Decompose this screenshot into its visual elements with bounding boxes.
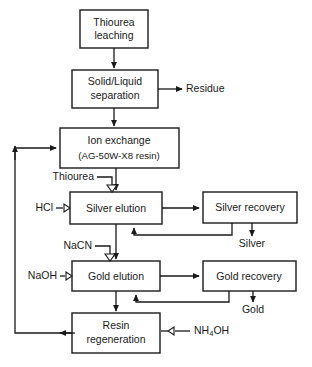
box-ion-exchange-line1: Ion exchange (87, 134, 150, 146)
box-resin-regeneration-line1: Resin (103, 319, 130, 331)
box-ion-exchange[interactable]: Ion exchange (AG-50W-X8 resin) (60, 128, 179, 168)
box-solid-liquid-separation[interactable]: Solid/Liquid separation (72, 70, 158, 108)
box-resin-regeneration-line2: regeneration (87, 333, 146, 345)
process-flow-diagram: Thiourea leaching Solid/Liquid separatio… (0, 0, 312, 367)
box-gold-recovery-label: Gold recovery (216, 270, 282, 282)
box-ion-exchange-line2: (AG-50W-X8 resin) (78, 150, 159, 161)
box-thiourea-leaching-line1: Thiourea (93, 16, 135, 28)
label-naoh-reagent: NaOH (28, 269, 57, 281)
label-nacn-reagent: NaCN (63, 239, 92, 251)
box-silver-elution[interactable]: Silver elution (70, 192, 162, 224)
label-residue: Residue (186, 82, 225, 94)
connector-gold-recovery-recycle (136, 291, 229, 302)
label-gold-product: Gold (242, 303, 264, 315)
box-resin-regeneration[interactable]: Resin regeneration (72, 313, 160, 353)
box-thiourea-leaching-line2: leaching (94, 29, 133, 41)
box-solid-liquid-separation-line1: Solid/Liquid (88, 75, 142, 87)
label-silver-product: Silver (239, 237, 266, 249)
box-gold-recovery[interactable]: Gold recovery (203, 261, 296, 291)
box-gold-elution[interactable]: Gold elution (72, 261, 160, 291)
box-solid-liquid-separation-line2: separation (90, 89, 139, 101)
naoh-valve-icon (66, 272, 72, 280)
box-silver-recovery-label: Silver recovery (215, 201, 285, 213)
nh4oh-base1: NH (194, 324, 209, 336)
box-silver-elution-label: Silver elution (86, 202, 146, 214)
nh4oh-valve-icon (168, 327, 174, 335)
connector-nacn-feed-line (95, 246, 110, 254)
hcl-valve-icon (64, 204, 70, 212)
connector-thiourea-feed-line (97, 177, 112, 185)
nacn-valve-icon (105, 254, 115, 261)
label-hcl-reagent: HCl (36, 201, 54, 213)
box-gold-elution-label: Gold elution (88, 270, 144, 282)
connector-silver-recovery-recycle (134, 223, 232, 235)
label-thiourea-reagent: Thiourea (53, 170, 95, 182)
label-nh4oh-reagent: NH4OH (194, 324, 229, 338)
box-silver-recovery[interactable]: Silver recovery (203, 192, 297, 223)
box-thiourea-leaching[interactable]: Thiourea leaching (80, 10, 148, 48)
nh4oh-base2: OH (213, 324, 229, 336)
